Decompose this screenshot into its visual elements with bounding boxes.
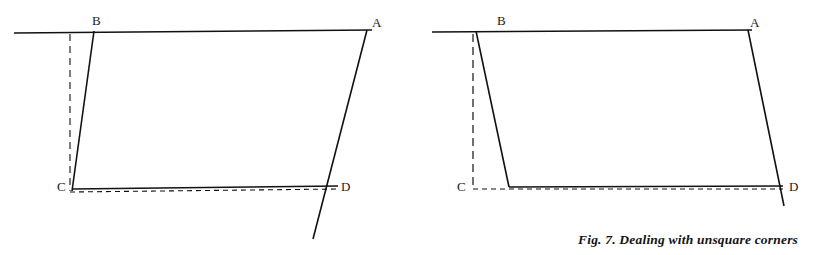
left-panel	[14, 30, 372, 239]
right-top-reference-line	[432, 30, 752, 32]
right-panel	[432, 30, 784, 206]
right-vertex-label-c: C	[457, 180, 466, 193]
left-side-ad-overrun-line	[313, 30, 367, 239]
left-top-reference-line	[14, 30, 372, 33]
figure-page: B A C D B A C D Fig. 7. Dealing with uns…	[0, 0, 840, 255]
left-bottom-cd-line	[72, 186, 338, 189]
right-vertex-label-d: D	[789, 180, 798, 193]
figure-drawing	[0, 0, 840, 255]
right-side-bc-line	[476, 31, 509, 187]
left-vertex-label-d: D	[341, 180, 350, 193]
left-bottom-guide-line	[70, 189, 338, 192]
left-vertex-label-b: B	[92, 14, 101, 27]
left-side-bc-line	[72, 31, 94, 191]
figure-caption: Fig. 7. Dealing with unsquare corners	[578, 232, 798, 248]
right-vertex-label-a: A	[750, 16, 759, 29]
right-vertex-label-b: B	[497, 14, 506, 27]
left-vertex-label-c: C	[57, 180, 66, 193]
right-bottom-cd-line	[509, 186, 783, 187]
left-vertex-label-a: A	[372, 16, 381, 29]
right-side-ad-line	[748, 30, 784, 206]
